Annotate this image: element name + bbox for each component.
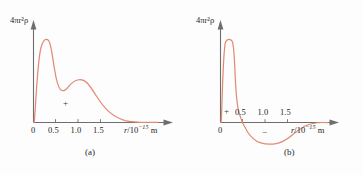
panel-a-tick-label-1-5: 1.5: [93, 126, 104, 135]
panel-b-zero-label: 0: [218, 126, 222, 135]
panel-b-plot: [181, 0, 362, 175]
panel-a-caption: (a): [85, 148, 95, 157]
panel-b-caption: (b): [284, 148, 295, 157]
panel-b-x-axis-label-exp: −15: [305, 123, 315, 130]
panel-a-curve: [34, 39, 158, 122]
panel-a-tick-label-1-0: 1.0: [71, 126, 82, 135]
figure-container: 4πr²ρ r/10−15 m 0 0.5 1.0 1.5 + (a): [0, 0, 363, 175]
panel-a-y-axis-label: 4πr²ρ: [10, 16, 28, 25]
panel-b-x-axis-label: r/10−15 m: [291, 126, 324, 135]
panel-b-y-axis-arrowhead: [218, 20, 224, 30]
chart-panel-a: 4πr²ρ r/10−15 m 0 0.5 1.0 1.5 + (a): [0, 0, 181, 175]
panel-b-y-axis-label: 4πr²ρ: [196, 16, 214, 25]
panel-b-x-axis-label-base: /10: [294, 125, 305, 135]
panel-a-y-axis-arrowhead: [31, 20, 37, 30]
panel-a-x-axis-arrowhead: [164, 120, 174, 126]
panel-b-minus-sign: −: [262, 128, 267, 137]
panel-a-plus-sign: +: [63, 99, 68, 108]
panel-b-tick-label-0-5: 0.5: [235, 108, 246, 117]
panel-b-x-axis-label-unit: m: [316, 125, 325, 135]
panel-a-x-axis-label-base: /10: [127, 125, 138, 135]
panel-b-x-axis-arrowhead: [330, 120, 340, 126]
panel-b-tick-label-1-0: 1.0: [258, 108, 269, 117]
panel-a-zero-label: 0: [31, 126, 35, 135]
panel-b-y-axis-label-text: 4πr²ρ: [196, 15, 214, 25]
panel-a-x-axis-label-exp: −15: [138, 123, 148, 130]
panel-a-y-axis-label-text: 4πr²ρ: [10, 15, 28, 25]
panel-a-x-axis-label: r/10−15 m: [124, 126, 157, 135]
chart-panel-b: 4πr²ρ r/10−15 m 0 0.5 1.0 1.5 + − (b): [181, 0, 362, 175]
panel-a-tick-label-0-5: 0.5: [48, 126, 59, 135]
panel-a-x-axis-label-unit: m: [149, 125, 158, 135]
panel-b-plus-sign: +: [224, 107, 229, 116]
panel-b-tick-label-1-5: 1.5: [280, 108, 291, 117]
